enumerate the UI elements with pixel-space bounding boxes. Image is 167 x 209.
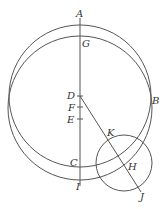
label-g: G <box>82 38 90 49</box>
label-k: K <box>106 127 115 138</box>
label-d: D <box>66 90 75 101</box>
label-f: F <box>67 102 76 113</box>
label-a: A <box>75 8 83 19</box>
label-h: H <box>127 161 137 172</box>
label-c: C <box>70 157 78 168</box>
label-j: J <box>138 191 145 202</box>
label-b: B <box>151 95 159 106</box>
geometry-diagram: A G D F E B C I K H J <box>0 0 167 209</box>
label-e: E <box>66 114 75 125</box>
